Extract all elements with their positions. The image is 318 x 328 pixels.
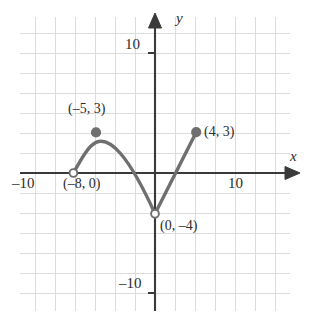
x-axis-label: x xyxy=(290,148,297,165)
point-label-peak: (–5, 3) xyxy=(68,101,105,117)
axes xyxy=(20,13,300,311)
y-axis-arrow xyxy=(149,13,162,28)
y-axis-tick-label-negative: –10 xyxy=(119,275,142,292)
point-label-right-endpoint: (4, 3) xyxy=(204,124,234,140)
point-label-vertex: (0, –4) xyxy=(160,218,197,234)
coordinate-plane xyxy=(0,0,318,328)
point-marker-open-vertex xyxy=(151,210,159,218)
y-axis-label: y xyxy=(176,10,183,27)
x-axis-tick-label-positive: 10 xyxy=(228,175,243,192)
y-axis-tick-label-positive: 10 xyxy=(125,36,140,53)
x-axis-arrow xyxy=(285,167,300,180)
graph-figure: y x 10 –10 –10 10 (–5, 3) (4, 3) (–8, 0)… xyxy=(0,0,318,328)
point-marker-filled-peak xyxy=(92,128,101,137)
x-axis-tick-label-negative: –10 xyxy=(12,175,35,192)
point-marker-filled-end xyxy=(192,128,201,137)
point-label-left-endpoint: (–8, 0) xyxy=(63,176,100,192)
